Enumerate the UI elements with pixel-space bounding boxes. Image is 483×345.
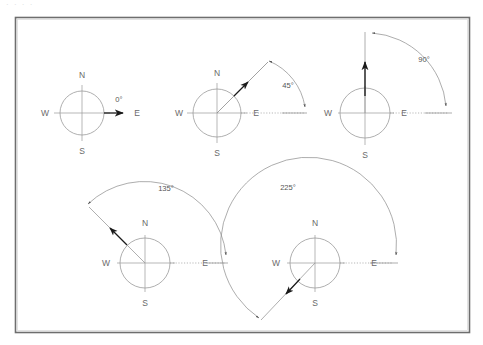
cardinal-label-west: W xyxy=(324,108,332,118)
cardinal-label-north: N xyxy=(312,218,318,228)
scan-artifact: · · · · xyxy=(6,0,146,9)
cardinal-label-north: N xyxy=(79,70,85,80)
cardinal-label-south: S xyxy=(312,298,318,308)
figure-border xyxy=(16,18,470,333)
compass-bearings-figure: N S W E 0° 45° N S W E xyxy=(0,0,483,345)
angle-label-135: 135° xyxy=(158,184,174,193)
cardinal-label-south: S xyxy=(142,298,148,308)
angle-label-90: 90° xyxy=(418,55,429,64)
figure-root: · · · · N S W E 0° xyxy=(0,0,483,345)
cardinal-label-west: W xyxy=(41,108,49,118)
cardinal-label-east: E xyxy=(401,108,407,118)
angle-label-45: 45° xyxy=(282,81,293,90)
cardinal-label-east: E xyxy=(202,258,208,268)
cardinal-label-east: E xyxy=(134,108,140,118)
angle-label-225: 225° xyxy=(280,183,296,192)
cardinal-label-south: S xyxy=(362,150,368,160)
cardinal-label-east: E xyxy=(253,108,259,118)
cardinal-label-west: W xyxy=(175,108,183,118)
cardinal-label-east: E xyxy=(371,258,377,268)
cardinal-label-south: S xyxy=(79,146,85,156)
cardinal-label-north: N xyxy=(214,68,220,78)
cardinal-label-south: S xyxy=(214,148,220,158)
cardinal-label-north: N xyxy=(142,218,148,228)
cardinal-label-west: W xyxy=(272,258,280,268)
angle-label-0: 0° xyxy=(115,95,122,104)
cardinal-label-west: W xyxy=(102,258,110,268)
